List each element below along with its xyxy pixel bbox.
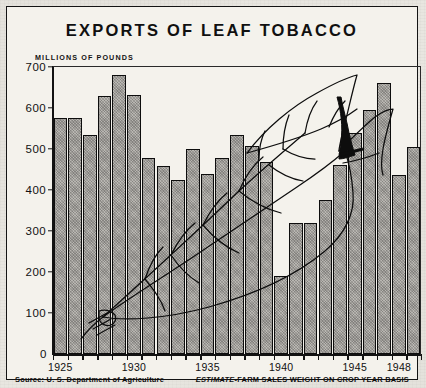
bar-1926 xyxy=(68,118,82,354)
x-tick-mark xyxy=(303,354,304,360)
bar-1933 xyxy=(171,180,185,354)
x-tick-mark xyxy=(377,354,378,360)
x-tick-mark xyxy=(392,354,393,360)
y-tick-label: 200 xyxy=(26,266,46,278)
bar-1946 xyxy=(363,110,377,354)
x-tick-mark xyxy=(244,354,245,360)
y-tick-mark xyxy=(48,230,53,231)
source-credit: Source: U. S. Department of Agriculture xyxy=(15,375,164,384)
chart-frame: EXPORTS OF LEAF TOBACCO MILLIONS OF POUN… xyxy=(6,6,418,380)
y-tick-label: 300 xyxy=(26,225,46,237)
y-axis-label: MILLIONS OF POUNDS xyxy=(35,53,134,62)
bar-1928 xyxy=(98,96,112,354)
footer-bar: Source: U. S. Department of Agriculture … xyxy=(15,373,409,386)
x-tick-mark xyxy=(230,354,231,360)
x-tick-mark xyxy=(127,354,128,360)
x-tick-label-1930: 1930 xyxy=(122,361,147,373)
bar-1929 xyxy=(112,75,126,354)
x-tick-mark xyxy=(333,354,334,360)
bar-1943 xyxy=(319,200,333,354)
x-tick-mark xyxy=(274,354,275,360)
x-tick-mark xyxy=(347,354,348,360)
x-tick-mark xyxy=(97,354,98,360)
bar-1947 xyxy=(377,83,391,354)
x-tick-mark xyxy=(185,354,186,360)
y-tick-label: 500 xyxy=(26,143,46,155)
page-title: EXPORTS OF LEAF TOBACCO xyxy=(7,21,417,40)
y-tick-label: 400 xyxy=(26,184,46,196)
bar-1937 xyxy=(230,135,244,354)
estimate-emphasis: ESTIMATE xyxy=(196,375,235,384)
estimate-note-rest: -FARM SALES WEIGHT ON CROP YEAR BASIS xyxy=(235,375,409,384)
x-tick-label-1945: 1945 xyxy=(342,361,367,373)
x-tick-mark xyxy=(53,354,54,360)
chart-page: EXPORTS OF LEAF TOBACCO MILLIONS OF POUN… xyxy=(0,0,426,388)
y-tick-label: 600 xyxy=(26,102,46,114)
y-tick-mark xyxy=(48,271,53,272)
x-tick-mark xyxy=(289,354,290,360)
estimate-note: ESTIMATE-FARM SALES WEIGHT ON CROP YEAR … xyxy=(196,375,409,384)
bar-1925 xyxy=(54,118,68,354)
bar-1931 xyxy=(142,158,156,354)
x-tick-label-1925: 1925 xyxy=(48,361,73,373)
bar-1934 xyxy=(186,149,200,354)
bar-1935 xyxy=(201,174,215,354)
x-tick-mark xyxy=(200,354,201,360)
y-tick-label: 100 xyxy=(26,307,46,319)
x-axis-line xyxy=(53,354,422,356)
x-tick-mark xyxy=(362,354,363,360)
x-tick-label-1948: 1948 xyxy=(387,361,412,373)
bar-24 xyxy=(407,147,421,354)
x-tick-mark xyxy=(318,354,319,360)
bar-1944 xyxy=(333,165,347,354)
x-tick-mark xyxy=(215,354,216,360)
x-tick-mark xyxy=(421,354,422,360)
bar-1927 xyxy=(83,135,97,354)
bar-1940 xyxy=(274,276,288,354)
bar-1932 xyxy=(157,166,171,354)
x-tick-mark xyxy=(68,354,69,360)
y-tick-mark xyxy=(48,107,53,108)
x-tick-mark xyxy=(406,354,407,360)
x-tick-mark xyxy=(141,354,142,360)
plot-area: 100200300400500600700 xyxy=(53,67,421,354)
y-tick-label-zero: 0 xyxy=(40,348,46,360)
x-tick-mark xyxy=(171,354,172,360)
x-tick-label-1940: 1940 xyxy=(269,361,294,373)
bar-1942 xyxy=(304,223,318,354)
y-tick-mark xyxy=(48,189,53,190)
x-tick-mark xyxy=(82,354,83,360)
y-tick-mark xyxy=(48,66,53,67)
y-tick-mark xyxy=(48,148,53,149)
x-tick-label-1935: 1935 xyxy=(195,361,220,373)
x-tick-mark xyxy=(112,354,113,360)
bar-1948 xyxy=(392,175,406,354)
bar-1930 xyxy=(127,95,141,354)
bar-1939 xyxy=(260,162,274,354)
bar-1945 xyxy=(348,133,362,354)
y-tick-label: 700 xyxy=(26,61,46,73)
bar-1941 xyxy=(289,223,303,354)
bar-1938 xyxy=(245,146,259,354)
x-tick-mark xyxy=(259,354,260,360)
y-tick-mark xyxy=(48,312,53,313)
x-tick-mark xyxy=(156,354,157,360)
bar-1936 xyxy=(215,158,229,354)
